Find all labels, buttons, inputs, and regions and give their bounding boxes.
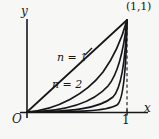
plot-canvas — [0, 0, 159, 139]
curve-label-n-equals-2: n = 2 — [52, 79, 82, 90]
y-axis-label: y — [21, 5, 28, 17]
origin-label: O — [12, 113, 22, 125]
curve-label-n-equals-1: n = 1 — [57, 52, 87, 63]
x-axis-label: x — [144, 102, 151, 114]
corner-point-label: (1,1) — [126, 1, 151, 12]
power-functions-figure: y x O 1 (1,1) n = 1 n = 2 — [0, 0, 159, 139]
x-tick-label-one: 1 — [122, 114, 130, 126]
